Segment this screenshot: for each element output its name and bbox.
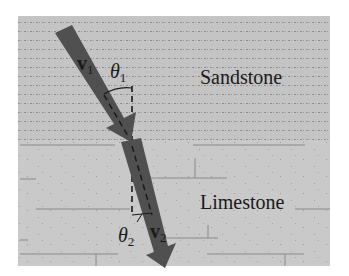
v1-label: v1 — [77, 52, 94, 78]
v2-label: v2 — [150, 220, 167, 246]
diagram-canvas — [0, 0, 349, 276]
theta2-label: θ2 — [118, 224, 134, 250]
refraction-diagram: v1 θ1 Sandstone Limestone θ2 v2 — [0, 0, 349, 276]
theta1-label: θ1 — [110, 60, 126, 86]
sandstone-label: Sandstone — [200, 66, 282, 89]
limestone-label: Limestone — [200, 191, 284, 214]
